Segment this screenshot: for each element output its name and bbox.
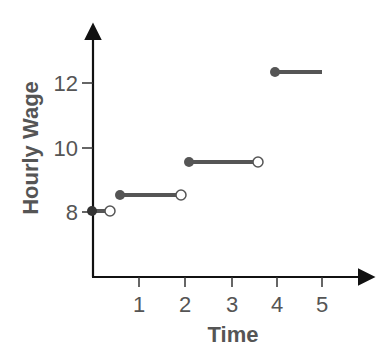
closed-endpoint (184, 157, 194, 167)
step-chart: 1 2 3 4 5 12 10 8 Time Hourly Wage (0, 0, 383, 355)
y-tick-label: 10 (54, 136, 78, 161)
y-tick-label: 12 (54, 71, 78, 96)
open-endpoint (105, 206, 115, 216)
closed-endpoint (87, 206, 97, 216)
y-axis-title: Hourly Wage (18, 81, 43, 215)
x-tick-label: 2 (179, 292, 191, 317)
closed-endpoint (115, 190, 125, 200)
x-tick-label: 1 (133, 292, 145, 317)
x-axis-title: Time (208, 322, 259, 347)
closed-endpoint (270, 67, 280, 77)
x-ticks (139, 277, 322, 287)
x-tick-label: 4 (271, 292, 283, 317)
step-segments (87, 67, 322, 216)
x-tick-label: 5 (316, 292, 328, 317)
y-ticks (82, 83, 93, 212)
y-tick-label: 8 (66, 200, 78, 225)
y-tick-labels: 12 10 8 (54, 71, 78, 225)
x-tick-labels: 1 2 3 4 5 (133, 292, 328, 317)
x-tick-label: 3 (226, 292, 238, 317)
open-endpoint (176, 190, 186, 200)
open-endpoint (253, 157, 263, 167)
